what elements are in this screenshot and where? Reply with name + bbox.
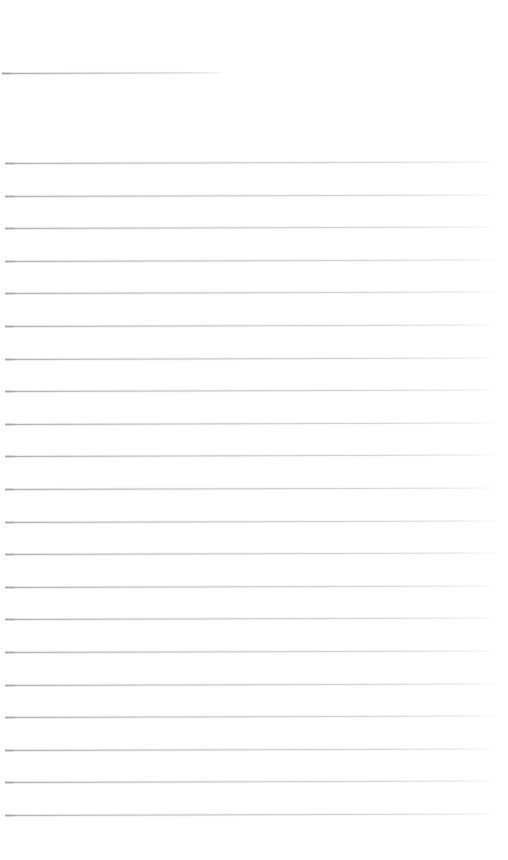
rule-stroke (5, 781, 497, 784)
rule-stroke (5, 650, 497, 653)
rule-stroke (5, 390, 497, 393)
rule-antialias-halo (5, 226, 497, 231)
rule-left-margin-smudge (5, 781, 14, 784)
rule-antialias-halo (5, 552, 497, 557)
rule-stroke (5, 748, 497, 751)
ruled-line (5, 194, 497, 197)
rule-left-margin-smudge (5, 749, 14, 752)
ruled-line (5, 324, 497, 327)
rule-antialias-halo (5, 780, 497, 785)
rule-stroke (5, 161, 497, 164)
rule-antialias-halo (5, 389, 497, 394)
ruled-line (5, 455, 497, 458)
rule-stroke (2, 72, 222, 74)
rule-left-margin-smudge (5, 716, 14, 719)
rule-antialias-halo (5, 454, 497, 459)
rule-left-margin-smudge (2, 72, 11, 75)
rule-antialias-halo (5, 193, 497, 198)
ruled-line (5, 716, 497, 719)
rule-antialias-halo (5, 486, 497, 491)
rule-antialias-halo (5, 649, 497, 654)
rule-antialias-halo (2, 71, 222, 75)
rule-left-margin-smudge (5, 814, 14, 817)
ruled-line (5, 813, 497, 816)
rule-stroke (5, 585, 497, 588)
rule-antialias-halo (5, 747, 497, 752)
rule-left-margin-smudge (5, 618, 14, 621)
paper-writing-surface (0, 0, 508, 860)
rule-left-margin-smudge (5, 521, 14, 524)
document-page (0, 0, 508, 860)
rule-antialias-halo (5, 160, 497, 165)
rule-antialias-halo (5, 323, 497, 328)
ruled-line (5, 618, 497, 621)
rule-stroke (5, 683, 497, 686)
rule-stroke (5, 487, 497, 490)
rule-left-margin-smudge (5, 684, 14, 687)
rule-left-margin-smudge (5, 162, 14, 165)
rule-left-margin-smudge (5, 358, 14, 361)
rule-stroke (5, 618, 497, 621)
rule-stroke (5, 716, 497, 719)
rule-antialias-halo (5, 421, 497, 426)
ruled-line (5, 748, 497, 751)
rule-antialias-halo (5, 291, 497, 296)
rule-left-margin-smudge (5, 455, 14, 458)
ruled-line (5, 292, 497, 295)
rule-left-margin-smudge (5, 260, 14, 263)
rule-left-margin-smudge (5, 390, 14, 393)
rule-stroke (5, 520, 497, 523)
rule-left-margin-smudge (5, 195, 14, 198)
rule-stroke (5, 324, 497, 327)
rule-stroke (5, 357, 497, 360)
rule-antialias-halo (5, 356, 497, 361)
rule-left-margin-smudge (5, 553, 14, 556)
ruled-line (5, 683, 497, 686)
ruled-line (5, 585, 497, 588)
rule-stroke (5, 813, 497, 816)
ruled-line (5, 487, 497, 490)
rule-antialias-halo (5, 584, 497, 589)
ruled-line (5, 259, 497, 262)
rule-left-margin-smudge (5, 586, 14, 589)
rule-stroke (5, 227, 497, 230)
rule-stroke (5, 194, 497, 197)
rule-antialias-halo (5, 519, 497, 524)
ruled-line (5, 422, 497, 425)
rule-left-margin-smudge (5, 292, 14, 295)
ruled-line (5, 553, 497, 556)
rule-antialias-halo (5, 682, 497, 687)
ruled-line (5, 161, 497, 164)
rule-stroke (5, 455, 497, 458)
rule-left-margin-smudge (5, 488, 14, 491)
rule-antialias-halo (5, 258, 497, 263)
ruled-line (5, 650, 497, 653)
rule-left-margin-smudge (5, 325, 14, 328)
ruled-line (5, 227, 497, 230)
ruled-line (5, 357, 497, 360)
ruled-line (5, 390, 497, 393)
ruled-line (5, 781, 497, 784)
rule-stroke (5, 553, 497, 556)
rule-antialias-halo (5, 715, 497, 720)
rule-stroke (5, 259, 497, 262)
rule-left-margin-smudge (5, 651, 14, 654)
rule-antialias-halo (5, 617, 497, 622)
ruled-line (5, 520, 497, 523)
heading-underline-rule (2, 72, 222, 74)
rule-left-margin-smudge (5, 227, 14, 230)
rule-stroke (5, 292, 497, 295)
rule-stroke (5, 422, 497, 425)
rule-left-margin-smudge (5, 423, 14, 426)
rule-antialias-halo (5, 812, 497, 817)
